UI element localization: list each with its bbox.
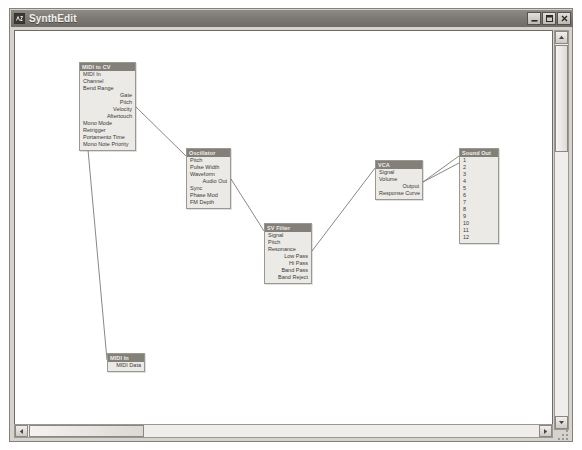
module-vca[interactable]: VCASignalVolumeOutputResponse Curve (375, 160, 423, 200)
vertical-scrollbar[interactable] (554, 30, 569, 430)
app-icon[interactable] (14, 13, 25, 24)
wire-midicv-pitch-to-osc-pitch[interactable] (136, 107, 186, 156)
scroll-up-arrow-icon[interactable] (555, 31, 568, 44)
horizontal-scrollbar-thumb[interactable] (29, 425, 144, 437)
pin-in-midi-in[interactable]: MIDI In (80, 71, 135, 78)
window-title: SynthEdit (29, 13, 526, 24)
pin-in-6[interactable]: 6 (460, 192, 498, 199)
synthedit-window: SynthEdit MIDI to CVMIDI InChannelBend R… (9, 8, 573, 442)
pin-in-2[interactable]: 2 (460, 164, 498, 171)
pin-out-pitch[interactable]: Pitch (80, 99, 135, 106)
pin-out-band-reject[interactable]: Band Reject (265, 274, 311, 281)
pin-in-10[interactable]: 10 (460, 220, 498, 227)
scroll-left-arrow-icon[interactable] (15, 425, 28, 437)
vertical-scrollbar-thumb[interactable] (555, 45, 568, 152)
module-title: Oscillator (187, 149, 230, 157)
pin-out-velocity[interactable]: Velocity (80, 106, 135, 113)
pin-in-4[interactable]: 4 (460, 178, 498, 185)
wire-vca-output-to-soundout-1[interactable] (423, 156, 459, 182)
module-oscillator[interactable]: OscillatorPitchPulse WidthWaveformAudio … (186, 148, 231, 209)
pin-in-response-curve[interactable]: Response Curve (376, 190, 422, 197)
pin-in-12[interactable]: 12 (460, 234, 498, 241)
pin-in-7[interactable]: 7 (460, 199, 498, 206)
pin-in-phase-mod[interactable]: Phase Mod (187, 192, 230, 199)
pin-out-band-pass[interactable]: Band Pass (265, 267, 311, 274)
pin-in-sync[interactable]: Sync (187, 185, 230, 192)
module-midi-to-cv[interactable]: MIDI to CVMIDI InChannelBend RangeGatePi… (79, 62, 136, 151)
module-midi-in[interactable]: MIDI InMIDI Data (107, 353, 145, 372)
pin-out-audio-out[interactable]: Audio Out (187, 178, 230, 185)
close-button[interactable] (557, 12, 571, 25)
wire-filter-lowpass-to-vca-signal[interactable] (312, 168, 375, 251)
pin-in-mono-note-priority[interactable]: Mono Note Priority (80, 141, 135, 148)
pin-in-signal[interactable]: Signal (376, 169, 422, 176)
title-bar[interactable]: SynthEdit (11, 10, 573, 27)
pin-in-retrigger[interactable]: Retrigger (80, 127, 135, 134)
horizontal-scrollbar[interactable] (14, 424, 553, 438)
pin-in-fm-depth[interactable]: FM Depth (187, 199, 230, 206)
pin-in-pitch[interactable]: Pitch (265, 239, 311, 246)
pin-out-low-pass[interactable]: Low Pass (265, 253, 311, 260)
pin-out-aftertouch[interactable]: Aftertouch (80, 113, 135, 120)
pin-in-8[interactable]: 8 (460, 206, 498, 213)
patch-canvas[interactable]: MIDI to CVMIDI InChannelBend RangeGatePi… (14, 30, 553, 430)
pin-in-volume[interactable]: Volume (376, 176, 422, 183)
pin-in-channel[interactable]: Channel (80, 78, 135, 85)
pin-out-gate[interactable]: Gate (80, 92, 135, 99)
module-sv-filter[interactable]: SV FilterSignalPitchResonanceLow PassHi … (264, 223, 312, 284)
module-title: VCA (376, 161, 422, 169)
pin-in-1[interactable]: 1 (460, 157, 498, 164)
wire-vca-output-to-soundout-2[interactable] (423, 163, 459, 182)
pin-in-9[interactable]: 9 (460, 213, 498, 220)
pin-in-5[interactable]: 5 (460, 185, 498, 192)
pin-in-portamento-time[interactable]: Portamento Time (80, 134, 135, 141)
wire-osc-audioout-to-filter-signal[interactable] (231, 179, 264, 231)
module-title: MIDI In (108, 354, 144, 362)
resize-grip[interactable] (557, 426, 570, 439)
module-title: MIDI to CV (80, 63, 135, 71)
pin-in-pitch[interactable]: Pitch (187, 157, 230, 164)
module-title: Sound Out (460, 149, 498, 157)
pin-in-pulse-width[interactable]: Pulse Width (187, 164, 230, 171)
pin-in-3[interactable]: 3 (460, 171, 498, 178)
scroll-right-arrow-icon[interactable] (539, 425, 552, 437)
pin-out-midi-data[interactable]: MIDI Data (108, 362, 144, 369)
pin-out-output[interactable]: Output (376, 183, 422, 190)
pin-in-11[interactable]: 11 (460, 227, 498, 234)
maximize-button[interactable] (542, 12, 556, 25)
pin-out-hi-pass[interactable]: Hi Pass (265, 260, 311, 267)
pin-in-resonance[interactable]: Resonance (265, 246, 311, 253)
module-title: SV Filter (265, 224, 311, 232)
pin-in-bend-range[interactable]: Bend Range (80, 85, 135, 92)
module-sound-out[interactable]: Sound Out123456789101112 (459, 148, 499, 244)
pin-in-waveform[interactable]: Waveform (187, 171, 230, 178)
pin-in-mono-mode[interactable]: Mono Mode (80, 120, 135, 127)
minimize-button[interactable] (527, 12, 541, 25)
pin-in-signal[interactable]: Signal (265, 232, 311, 239)
